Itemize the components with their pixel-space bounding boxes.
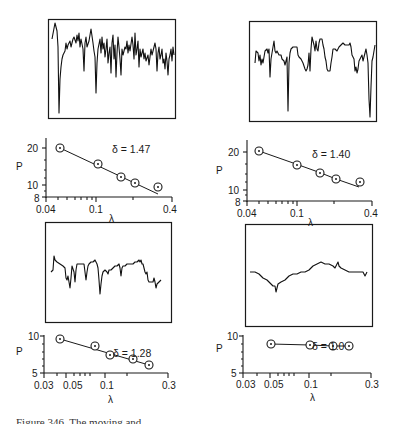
x-tick-0.04: 0.04 (237, 208, 257, 219)
x-tick-0.1: 0.1 (89, 204, 103, 215)
x-tick-0.4: 0.4 (364, 208, 378, 219)
trace-plot-top-left (48, 19, 176, 119)
trace-panel-top-left (48, 19, 176, 119)
x-axis-label: λ (108, 394, 113, 405)
y-tick-5: 5 (231, 368, 237, 379)
trace-plot-top-right (249, 21, 377, 122)
profile-trace (51, 256, 161, 294)
chart-bottom-right: P 10 5 0.03 0.05 0.1 0.3 λ δ = 1.0 (200, 330, 397, 405)
y-axis-label: P (216, 165, 223, 176)
profile-trace (255, 37, 375, 117)
trace-frame (246, 225, 373, 327)
x-tick-0.4: 0.4 (163, 204, 177, 215)
loglog-plot-top-left: P 20 10 8 0.04 0.1 0.4 λ (0, 130, 200, 225)
trace-panel-top-right (249, 21, 377, 122)
x-tick-0.05: 0.05 (264, 379, 284, 390)
chart-bottom-left: P 10 5 0.03 0.05 0.1 0.3 λ δ (0, 330, 200, 405)
x-tick-0.03: 0.03 (34, 380, 54, 391)
x-tick-0.1: 0.1 (304, 379, 318, 390)
y-tick-20: 20 (228, 147, 240, 158)
profile-trace (250, 262, 367, 292)
x-tick-0.04: 0.04 (36, 204, 56, 215)
trace-panel-bottom-right (245, 224, 373, 327)
profile-trace (52, 23, 174, 113)
y-tick-10: 10 (28, 331, 40, 342)
y-axis-label: P (16, 161, 23, 172)
chart-top-right: P 20 10 8 0.04 0.1 0.4 λ (200, 130, 397, 225)
y-tick-10: 10 (27, 180, 39, 191)
delta-label: δ = 1.40 (312, 148, 350, 160)
y-axis-label: P (216, 343, 223, 354)
delta-label: δ = 1.28 (113, 347, 151, 359)
trace-plot-bottom-left (45, 222, 172, 323)
y-tick-10: 10 (228, 185, 240, 196)
trace-plot-bottom-right (245, 224, 373, 327)
y-tick-10: 10 (227, 331, 239, 342)
chart-top-left: P 20 10 8 0.04 0.1 0.4 λ (0, 130, 200, 225)
y-tick-8: 8 (235, 197, 241, 208)
x-tick-0.3: 0.3 (365, 379, 379, 390)
x-tick-0.1: 0.1 (290, 208, 304, 219)
x-axis-label: λ (310, 392, 315, 403)
trace-panel-bottom-left (45, 222, 172, 323)
x-tick-0.1: 0.1 (100, 380, 114, 391)
loglog-plot-bottom-left: P 10 5 0.03 0.05 0.1 0.3 λ δ (0, 330, 200, 405)
delta-label: δ = 1.0 (312, 340, 345, 352)
y-tick-20: 20 (27, 143, 39, 154)
loglog-plot-top-right: P 20 10 8 0.04 0.1 0.4 λ (200, 130, 397, 225)
y-axis-label: P (16, 346, 23, 357)
x-tick-0.05: 0.05 (63, 380, 83, 391)
y-tick-8: 8 (34, 193, 40, 204)
x-tick-0.03: 0.03 (236, 379, 256, 390)
delta-label: δ = 1.47 (112, 143, 150, 155)
loglog-plot-bottom-right: P 10 5 0.03 0.05 0.1 0.3 λ δ = 1.0 (200, 330, 397, 405)
figure-caption: Figure 346. The moving and ... (16, 414, 152, 424)
x-tick-0.3: 0.3 (162, 380, 176, 391)
y-tick-5: 5 (32, 368, 38, 379)
